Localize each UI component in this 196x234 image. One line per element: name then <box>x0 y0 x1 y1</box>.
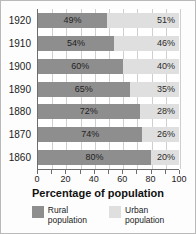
bar-segment-rural: 65% <box>38 82 130 97</box>
legend-swatch-icon <box>109 206 121 218</box>
stacked-bar-chart: 1920191019001890188018701860 49%51%54%46… <box>0 0 196 234</box>
gridline <box>180 9 181 169</box>
category-label-1920: 1920 <box>9 13 31 28</box>
bar-row: 49%51% <box>38 13 179 28</box>
bar-row: 72%28% <box>38 104 179 119</box>
category-label-1860: 1860 <box>9 150 31 165</box>
bar-value-label-rural: 80% <box>85 153 103 162</box>
x-tick-label-60: 60 <box>117 174 127 184</box>
x-tick-label-0: 0 <box>34 174 39 184</box>
legend-label: Urbanpopulation <box>125 205 164 225</box>
bar-row: 65%35% <box>38 82 179 97</box>
x-axis-title: Percentage of population <box>1 187 195 199</box>
bar-value-label-urban: 28% <box>157 107 179 116</box>
x-tick-label-40: 40 <box>89 174 99 184</box>
category-axis-labels: 1920191019001890188018701860 <box>1 9 35 169</box>
bar-row: 60%40% <box>38 59 179 74</box>
bar-segment-urban: 35% <box>130 82 179 97</box>
bar-segment-urban: 20% <box>151 150 179 165</box>
bar-value-label-rural: 65% <box>75 85 93 94</box>
bar-row: 80%20% <box>38 150 179 165</box>
bar-segment-urban: 46% <box>114 36 179 51</box>
category-label-1880: 1880 <box>9 104 31 119</box>
x-tick-label-80: 80 <box>146 174 156 184</box>
chart-legend: RuralpopulationUrbanpopulation <box>1 205 195 225</box>
bar-segment-rural: 80% <box>38 150 151 165</box>
bar-value-label-rural: 54% <box>67 39 85 48</box>
legend-swatch-icon <box>32 206 44 218</box>
x-axis-tick-labels: 020406080100 <box>37 174 179 186</box>
category-label-1890: 1890 <box>9 82 31 97</box>
bar-value-label-urban: 35% <box>157 85 179 94</box>
bar-value-label-rural: 60% <box>71 62 89 71</box>
bar-value-label-rural: 74% <box>81 130 99 139</box>
bar-row: 54%46% <box>38 36 179 51</box>
bar-segment-rural: 60% <box>38 59 123 74</box>
bar-value-label-urban: 46% <box>157 39 179 48</box>
legend-item-urban[interactable]: Urbanpopulation <box>109 205 164 225</box>
bar-value-label-urban: 26% <box>157 130 179 139</box>
bar-value-label-urban: 40% <box>157 62 179 71</box>
bar-segment-rural: 54% <box>38 36 114 51</box>
category-label-1910: 1910 <box>9 36 31 51</box>
bar-value-label-urban: 51% <box>157 16 179 25</box>
category-label-1870: 1870 <box>9 127 31 142</box>
bar-segment-rural: 72% <box>38 104 140 119</box>
bar-segment-urban: 28% <box>140 104 179 119</box>
bar-value-label-urban: 20% <box>157 153 179 162</box>
bar-segment-rural: 74% <box>38 127 142 142</box>
bar-segment-urban: 26% <box>142 127 179 142</box>
category-label-1900: 1900 <box>9 59 31 74</box>
x-tick-label-20: 20 <box>60 174 70 184</box>
bar-segment-rural: 49% <box>38 13 107 28</box>
bar-series-group: 49%51%54%46%60%40%65%35%72%28%74%26%80%2… <box>38 9 179 169</box>
bar-segment-urban: 51% <box>107 13 179 28</box>
bar-value-label-rural: 49% <box>64 16 82 25</box>
bar-row: 74%26% <box>38 127 179 142</box>
legend-item-rural[interactable]: Ruralpopulation <box>32 205 87 225</box>
legend-label: Ruralpopulation <box>48 205 87 225</box>
bar-value-label-rural: 72% <box>80 107 98 116</box>
bar-segment-urban: 40% <box>123 59 179 74</box>
plot-area: 49%51%54%46%60%40%65%35%72%28%74%26%80%2… <box>37 9 179 169</box>
x-tick-label-100: 100 <box>171 174 186 184</box>
